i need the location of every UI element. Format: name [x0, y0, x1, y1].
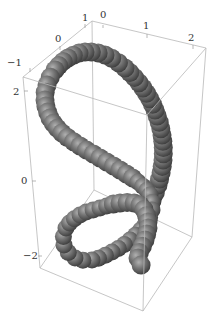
y-tick-0: 0: [100, 9, 106, 20]
y-tick-1: 1: [143, 20, 149, 31]
z-axis-ticks: 2 0 −2: [13, 86, 38, 261]
tube-curve: [36, 43, 173, 275]
x-tick-1: 1: [82, 12, 88, 23]
z-tick-neg2: −2: [23, 250, 38, 261]
x-tick-neg1: −1: [7, 57, 22, 68]
x-tick-0: 0: [55, 33, 61, 44]
z-tick-2: 2: [13, 86, 19, 97]
z-tick-0: 0: [21, 175, 27, 186]
y-tick-2: 2: [188, 32, 194, 43]
3d-plot: −1 0 1 0 1 2 2 0 −2: [0, 0, 212, 323]
tube-bead: [132, 256, 151, 275]
